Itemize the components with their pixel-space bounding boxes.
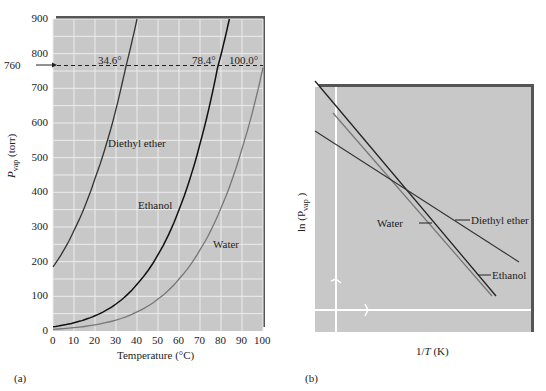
y-tick-label: 600 <box>32 117 49 128</box>
x-tick-label: 70 <box>194 335 205 346</box>
y-tick-label: 700 <box>32 82 49 93</box>
panel-b-plot <box>315 81 534 332</box>
bp-ethanol-label: 78.4° <box>192 55 216 66</box>
x-tick-label: 90 <box>236 335 247 346</box>
bp-water-label: 100.0° <box>229 55 258 66</box>
y-label-sub: vap <box>11 160 20 172</box>
x-tick-label: 20 <box>89 335 100 346</box>
y-tick-label: 0 <box>43 325 49 336</box>
series-label-diethyl-ether: Diethyl ether <box>108 138 166 149</box>
panel-b-caption: (b) <box>305 373 318 384</box>
y-label-b-sub: vap <box>301 199 310 211</box>
y-label-b-end: ) <box>295 193 307 199</box>
series-label-water-b: Water <box>377 218 403 229</box>
y-axis-label-a: Pvap (torr) <box>6 134 20 178</box>
x-tick-label: 30 <box>110 335 121 346</box>
x-tick-label: 80 <box>215 335 226 346</box>
x-axis-label-a: Temperature (°C) <box>117 350 194 361</box>
y-tick-label: 200 <box>32 256 49 267</box>
y-tick-label: 800 <box>32 48 49 59</box>
series-label-ethanol: Ethanol <box>138 200 172 211</box>
series-label-diethyl-ether-b: Diethyl ether <box>471 215 529 226</box>
chart-canvas <box>0 0 546 391</box>
x-tick-label: 0 <box>50 335 56 346</box>
x-tick-label: 60 <box>173 335 184 346</box>
y-label-unit: (torr) <box>5 134 17 160</box>
x-label-b-pre: 1/ <box>416 345 425 357</box>
y-label-b-main: ln (P <box>295 211 307 232</box>
panel-a-caption: (a) <box>14 373 26 384</box>
y-tick-label: 500 <box>32 152 49 163</box>
series-label-ethanol-b: Ethanol <box>492 270 526 281</box>
y-label-p: P <box>5 171 17 178</box>
bp-ether-label: 34.6° <box>98 55 122 66</box>
y-tick-label: 100 <box>32 290 49 301</box>
series-label-water: Water <box>213 239 239 250</box>
y-tick-label: 400 <box>32 186 49 197</box>
y-tick-label: 300 <box>32 221 49 232</box>
x-tick-label: 10 <box>68 335 79 346</box>
x-tick-label: 50 <box>152 335 163 346</box>
x-tick-label: 40 <box>131 335 142 346</box>
y-tick-label: 900 <box>32 13 49 24</box>
x-axis-label-b: 1/T (K) <box>416 346 449 357</box>
y-axis-label-b: ln (Pvap ) <box>296 193 310 232</box>
x-tick-label: 100 <box>254 335 271 346</box>
reference-760-label: 760 <box>4 60 21 71</box>
x-label-b-post: (K) <box>431 345 449 357</box>
